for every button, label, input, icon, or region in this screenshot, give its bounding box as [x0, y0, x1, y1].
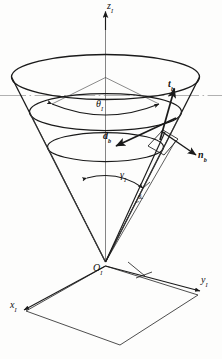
figure-canvas: [0, 0, 222, 359]
z-axis-label: zI: [107, 1, 113, 13]
origin-label: OI: [93, 263, 102, 275]
direction-vector-label: db: [103, 131, 111, 143]
x-axis-label: xI: [10, 300, 17, 312]
y-axis-label: yI: [201, 275, 208, 287]
tangent-vector-label: tb: [168, 79, 174, 91]
cone-geometry-figure: zI θI tb db nb γI wI OI yI xI: [0, 0, 222, 359]
ground-plane-parallelogram: [26, 266, 198, 345]
gamma-angle-arc: [87, 176, 143, 188]
y-axis-arrow: [106, 266, 201, 291]
theta-angle-label: θI: [96, 99, 103, 111]
normal-vector-label: nb: [198, 150, 207, 162]
triad-base-patch: [148, 130, 178, 155]
gamma-angle-label: γI: [120, 170, 126, 182]
